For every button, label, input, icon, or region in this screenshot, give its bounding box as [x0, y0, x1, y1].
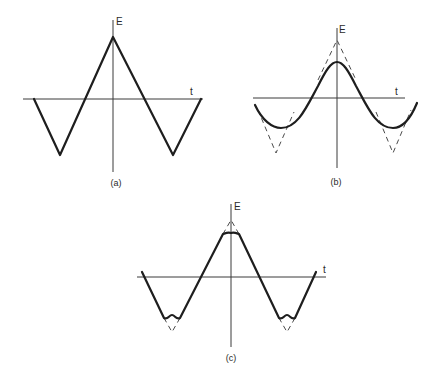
- e-axis-label: E: [339, 24, 346, 35]
- t-axis-label: t: [323, 264, 326, 275]
- t-axis-label: t: [190, 86, 193, 97]
- ideal-triangle-dashed: [258, 40, 411, 153]
- dashed-segment: [376, 110, 411, 153]
- e-axis-label: E: [234, 201, 241, 212]
- panel-caption: (a): [111, 178, 122, 188]
- ideal-triangle-dashed: [164, 220, 295, 332]
- waveform-triangle: [34, 37, 201, 155]
- panel-b: E t (b): [253, 24, 417, 187]
- e-axis-label: E: [116, 16, 123, 27]
- waveform-sinusoid: [255, 62, 417, 128]
- dashed-segment: [279, 318, 295, 332]
- waveform-figure: E t (a) E t (b) E t (c): [0, 0, 439, 377]
- t-axis-label: t: [395, 86, 398, 97]
- waveform-rounded-triangle: [142, 233, 316, 319]
- panel-c: E t (c): [137, 201, 326, 363]
- dashed-segment: [164, 318, 180, 332]
- panel-caption: (c): [226, 353, 237, 363]
- panel-a: E t (a): [23, 16, 203, 188]
- panel-caption: (b): [331, 177, 342, 187]
- dashed-segment: [258, 110, 294, 153]
